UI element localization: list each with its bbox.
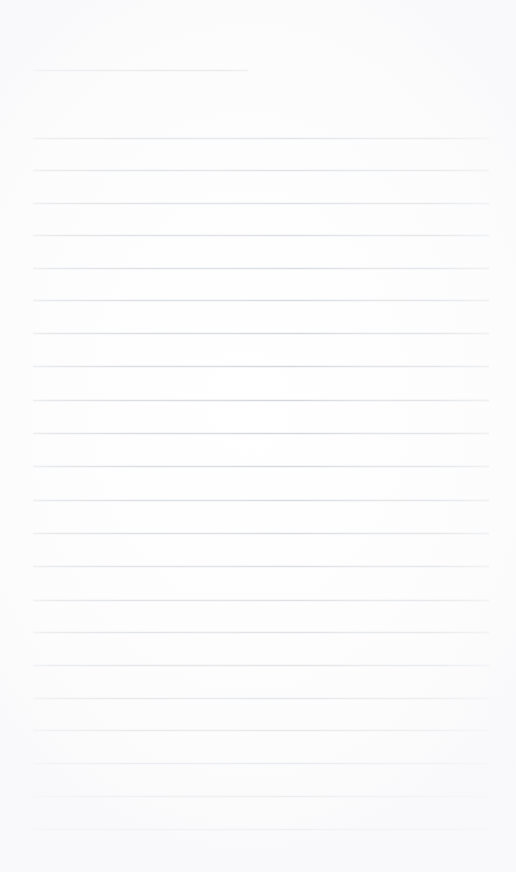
rule-line	[33, 333, 489, 334]
rule-line	[33, 433, 489, 434]
rule-line	[33, 829, 489, 830]
rule-line	[33, 466, 489, 467]
rule-line	[33, 400, 489, 401]
rule-line	[33, 533, 489, 534]
header-rule-line	[33, 70, 248, 71]
rule-line	[33, 566, 489, 567]
rule-line	[33, 665, 489, 666]
rule-line	[33, 632, 489, 633]
paper-grain-overlay	[0, 0, 516, 872]
rule-line	[33, 235, 489, 236]
rule-line	[33, 300, 489, 301]
rule-line	[33, 366, 489, 367]
rule-line	[33, 170, 489, 171]
lined-paper-page	[0, 0, 516, 872]
rule-line	[33, 763, 489, 764]
rule-line	[33, 268, 489, 269]
rule-line	[33, 500, 489, 501]
rule-line	[33, 796, 489, 797]
rule-line	[33, 600, 489, 601]
rule-line	[33, 203, 489, 204]
rule-line	[33, 698, 489, 699]
rule-line	[33, 138, 489, 139]
rule-line	[33, 730, 489, 731]
